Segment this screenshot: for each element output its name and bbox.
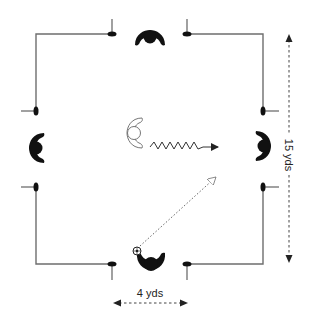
cone-icon [108,32,117,37]
cone-icon [261,183,266,192]
ball-icon [133,247,141,255]
player-top-icon [135,30,165,45]
cone-icon [108,262,117,267]
field-boundary [36,34,263,264]
player-center-outline-icon [127,118,142,148]
dimension-4-yds: 4 yds [113,287,188,307]
player-right-icon [256,131,271,161]
dribble-path-arrow [150,142,218,149]
corner-top-left [36,34,112,111]
cone-icon [34,183,39,192]
length-label: 15 yds [283,139,295,172]
cone-icon [183,262,192,267]
corner-top-right [187,34,263,111]
gate-flags [21,19,279,280]
corner-bottom-right [187,187,263,264]
player-left-icon [29,133,44,163]
width-label: 4 yds [137,287,164,299]
cone-icon [34,107,39,116]
corner-bottom-left [36,187,112,264]
dimension-15-yds: 15 yds [282,34,296,263]
player-bottom-icon [137,253,165,271]
cone-icon [261,107,266,116]
soccer-drill-diagram: 15 yds 4 yds [0,0,316,323]
pass-path-arrow [140,177,216,246]
cone-icon [183,32,192,37]
cones [34,32,266,267]
